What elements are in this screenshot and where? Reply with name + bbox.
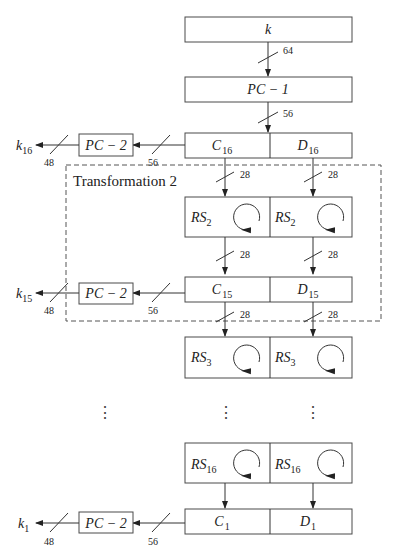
key-input-box: k: [185, 17, 352, 42]
key-label: k: [265, 22, 272, 37]
ellipsis-continuation: ⋮ ⋮ ⋮: [97, 404, 321, 421]
svg-text:56: 56: [148, 536, 158, 547]
arrow-key-to-pc1: 64: [258, 42, 293, 76]
svg-text:48: 48: [44, 536, 54, 547]
svg-text:k15: k15: [16, 286, 32, 304]
arrows-to-rs2: 28 28: [216, 158, 338, 196]
des-key-schedule-diagram: k 64 PC − 1 56 C16 D16 56 PC − 2 48 k16: [0, 0, 395, 555]
svg-text:PC − 2: PC − 2: [84, 286, 126, 301]
svg-text:48: 48: [44, 305, 54, 316]
svg-text:28: 28: [240, 249, 250, 260]
rs3-rotation-block: RS3 RS3: [185, 337, 352, 378]
transformation-label: Transformation 2: [73, 173, 177, 189]
svg-text:⋮: ⋮: [97, 404, 113, 421]
svg-text:28: 28: [328, 309, 338, 320]
subkey-k1-path: 56 PC − 2 48 k1: [18, 512, 185, 547]
pc1-box: PC − 1: [185, 77, 352, 102]
arrows-to-rs3: 28 28: [216, 302, 338, 336]
svg-text:28: 28: [328, 169, 338, 180]
width-label-64: 64: [283, 45, 293, 56]
svg-text:PC − 2: PC − 2: [84, 516, 126, 531]
k16-label: k16: [16, 138, 32, 156]
width-label-56: 56: [283, 108, 293, 119]
rs2-rotation-block: RS2 RS2: [185, 197, 352, 237]
arrow-pc1-to-c16d16: 56: [258, 102, 293, 132]
svg-text:⋮: ⋮: [218, 404, 234, 421]
svg-text:k1: k1: [18, 516, 29, 534]
svg-text:28: 28: [328, 249, 338, 260]
c1-d1-register: C1 D1: [185, 509, 352, 534]
svg-text:56: 56: [148, 157, 158, 168]
rs16-rotation-block: RS16 RS16: [185, 443, 352, 483]
c16-d16-register: C16 D16: [185, 133, 352, 158]
subkey-k16-path: 56 PC − 2 48 k16: [16, 134, 185, 168]
pc1-label: PC − 1: [246, 82, 288, 97]
svg-text:28: 28: [240, 309, 250, 320]
svg-text:PC − 2: PC − 2: [84, 138, 126, 153]
svg-text:56: 56: [148, 305, 158, 316]
subkey-k15-path: 56 PC − 2 48 k15: [16, 283, 185, 316]
arrows-to-c15: 28 28: [216, 237, 338, 274]
arrows-to-c1: [225, 483, 313, 508]
svg-text:28: 28: [240, 169, 250, 180]
svg-text:⋮: ⋮: [305, 404, 321, 421]
svg-text:48: 48: [44, 157, 54, 168]
c15-d15-register: C15 D15: [185, 277, 352, 302]
